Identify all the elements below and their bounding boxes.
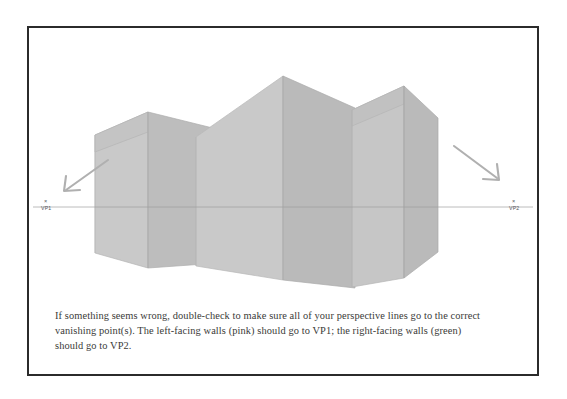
- vp1-label: VP1: [41, 205, 51, 211]
- vp2-marker-icon: ×: [512, 198, 515, 204]
- vp2-label: VP2: [509, 205, 519, 211]
- caption-text: If something seems wrong, double-check t…: [55, 308, 485, 354]
- vp1-marker-icon: ×: [44, 198, 47, 204]
- page-root: × VP1 × VP2 If something seems wrong, do…: [0, 0, 567, 399]
